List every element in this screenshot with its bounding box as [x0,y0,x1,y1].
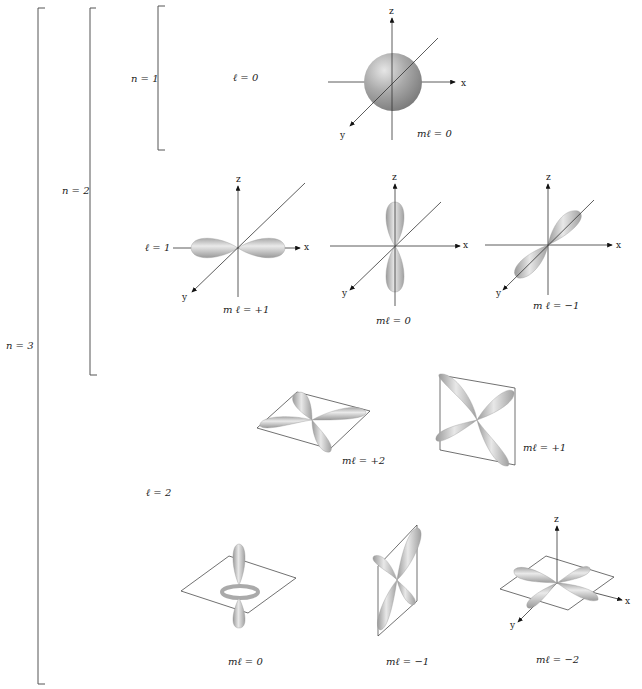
label-n3: n = 3 [6,340,34,351]
ml-p-plus1: m ℓ = +1 [223,304,269,315]
orbital-p-minus1: z x y [485,172,621,298]
orbital-d-plus1 [436,374,515,466]
ml-d-plus1: mℓ = +1 [523,442,566,453]
svg-text:z: z [554,514,559,524]
ml-p-minus1: m ℓ = −1 [533,300,579,311]
orbital-d-minus2: z x y [500,514,630,630]
orbital-d-plus2 [257,392,370,452]
ml-d-minus2: mℓ = −2 [536,654,579,665]
ml-d-0: mℓ = 0 [228,656,263,667]
orbital-d-minus1 [373,525,421,636]
svg-text:z: z [546,172,551,182]
ml-d-minus1: mℓ = −1 [386,656,429,667]
orbital-p-0: z x y [330,172,468,306]
label-n1: n = 1 [131,73,159,84]
svg-text:y: y [509,620,516,630]
orbital-s: z x y [328,6,466,140]
y-axis-label: y [339,130,346,140]
orbital-diagram: z x y z x y z x y z x y [0,0,642,689]
svg-text:y: y [341,288,348,298]
svg-text:y: y [181,292,188,302]
orbital-p-plus1: z x y [173,174,309,302]
z-axis-label: z [389,6,394,16]
label-n2: n = 2 [62,185,90,196]
label-l2: ℓ = 2 [146,487,171,498]
x-axis-label: x [461,78,466,88]
bracket-n1 [158,6,165,150]
svg-text:x: x [463,240,468,250]
svg-text:x: x [616,240,621,250]
ml-d-plus2: mℓ = +2 [342,455,385,466]
bracket-n2 [90,8,97,375]
svg-text:x: x [304,242,309,252]
label-l0: ℓ = 0 [233,72,258,83]
ml-p-0: mℓ = 0 [376,315,411,326]
svg-text:x: x [625,596,630,606]
svg-text:y: y [495,288,502,298]
svg-text:z: z [392,172,397,182]
bracket-n3 [38,8,45,684]
ml-s: mℓ = 0 [417,128,452,139]
svg-text:z: z [236,174,241,184]
label-l1: ℓ = 1 [145,242,170,253]
orbital-d-0 [181,544,296,628]
